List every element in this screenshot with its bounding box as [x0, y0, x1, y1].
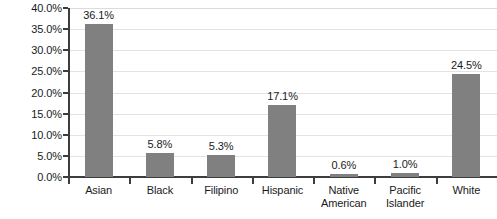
x-axis-category-line: White: [436, 184, 497, 197]
y-axis-tick: [63, 70, 68, 72]
y-axis-tick: [63, 49, 68, 51]
y-axis-labels: 0.0%5.0%10.0%15.0%20.0%25.0%30.0%35.0%40…: [0, 0, 62, 219]
x-axis-category-line: Black: [129, 184, 190, 197]
bar-value-label: 36.1%: [83, 10, 114, 21]
x-axis-category-line: Native: [313, 184, 374, 197]
bar: [207, 155, 235, 177]
bar-group: 5.8%: [129, 8, 190, 177]
y-axis-tick-label: 15.0%: [0, 108, 62, 119]
y-axis-tick-label: 10.0%: [0, 129, 62, 140]
y-axis-tick-label: 30.0%: [0, 45, 62, 56]
bar-group: 1.0%: [374, 8, 435, 177]
bar-group: 0.6%: [313, 8, 374, 177]
x-axis-category-line: Islander: [374, 197, 435, 210]
bar: [146, 153, 174, 178]
x-axis-category-line: American: [313, 197, 374, 210]
x-axis-category-label: White: [436, 184, 497, 197]
x-axis-category-label: Filipino: [191, 184, 252, 197]
bar-value-label: 5.3%: [209, 141, 234, 152]
y-axis-tick: [63, 113, 68, 115]
bar-chart: 0.0%5.0%10.0%15.0%20.0%25.0%30.0%35.0%40…: [0, 0, 497, 219]
x-axis-tick: [374, 178, 376, 184]
x-axis-category-label: NativeAmerican: [313, 184, 374, 210]
y-axis-tick: [63, 134, 68, 136]
bar-group: 36.1%: [68, 8, 129, 177]
y-axis-tick: [63, 155, 68, 157]
y-axis-tick: [63, 7, 68, 9]
bar: [85, 24, 113, 177]
x-axis-category-line: Filipino: [191, 184, 252, 197]
y-axis-tick-label: 5.0%: [0, 150, 62, 161]
x-axis-category-line: Pacific: [374, 184, 435, 197]
bar-value-label: 24.5%: [451, 60, 482, 71]
bars-layer: 36.1%5.8%5.3%17.1%0.6%1.0%24.5%: [68, 8, 497, 177]
bar-group: 24.5%: [436, 8, 497, 177]
bar-value-label: 1.0%: [393, 159, 418, 170]
bar: [330, 174, 358, 177]
y-axis-tick-label: 20.0%: [0, 87, 62, 98]
bar-value-label: 17.1%: [267, 91, 298, 102]
x-axis-tick: [129, 178, 131, 184]
x-axis-tick: [252, 178, 254, 184]
bar: [452, 74, 480, 178]
y-axis-tick-label: 25.0%: [0, 66, 62, 77]
y-axis-tick-label: 40.0%: [0, 3, 62, 14]
x-axis-category-line: Hispanic: [252, 184, 313, 197]
x-axis-category-line: Asian: [68, 184, 129, 197]
y-axis-tick: [63, 28, 68, 30]
x-axis-category-label: Hispanic: [252, 184, 313, 197]
y-axis-tick-label: 35.0%: [0, 24, 62, 35]
x-axis-tick: [436, 178, 438, 184]
y-axis-tick: [63, 92, 68, 94]
y-axis-tick-label: 0.0%: [0, 172, 62, 183]
bar: [391, 173, 419, 177]
bar-value-label: 0.6%: [331, 160, 356, 171]
bar: [268, 105, 296, 177]
bar-group: 5.3%: [191, 8, 252, 177]
x-axis-category-label: Asian: [68, 184, 129, 197]
bar-group: 17.1%: [252, 8, 313, 177]
bar-value-label: 5.8%: [148, 139, 173, 150]
x-axis-labels: AsianBlackFilipinoHispanicNativeAmerican…: [68, 184, 497, 219]
x-axis-tick: [191, 178, 193, 184]
x-axis-category-label: PacificIslander: [374, 184, 435, 210]
x-axis-tick: [313, 178, 315, 184]
x-axis-category-label: Black: [129, 184, 190, 197]
x-axis-tick: [68, 178, 70, 184]
